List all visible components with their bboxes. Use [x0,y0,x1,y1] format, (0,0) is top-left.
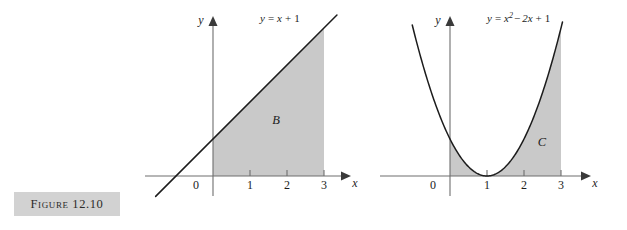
y-axis-arrow-left [209,16,218,26]
figure-caption-box: Figure 12.10 [14,192,120,216]
chart-left-linear: 0 1 2 3 x y B y=x+1 [135,0,365,230]
eq-right-equals: = [495,12,501,24]
x-tick-label-3-right: 3 [558,178,564,192]
shaded-region-b [213,28,324,176]
eq-right-lhs: y [486,12,492,24]
equation-label-right: y=x2−2x+1 [486,11,550,24]
shaded-region-c-precise [450,28,561,176]
x-tick-label-3-left: 3 [321,178,327,192]
x-axis-arrow-right [581,172,591,181]
x-tick-label-2-left: 2 [284,178,290,192]
eq-right-term3: 1 [545,12,551,24]
x-tick-label-0-right: 0 [430,178,436,192]
chart-right-parabola: 0 1 2 3 x y C y=x2−2x+1 [375,0,605,230]
region-label-c: C [538,135,547,149]
eq-right-term2: 2x [522,12,533,24]
x-axis-label-left: x [351,176,358,190]
eq-left-term1: x [276,12,282,24]
x-tick-label-1-right: 1 [484,178,490,192]
x-tick-label-2-right: 2 [521,178,527,192]
eq-right-plus: + [536,12,542,24]
eq-left-plus: + [285,12,291,24]
eq-left-term2: 1 [294,12,300,24]
eq-right-exponent: 2 [509,11,513,20]
x-axis-arrow-left [341,172,351,181]
eq-right-minus: − [514,12,520,24]
x-tick-label-0-left: 0 [193,178,199,192]
equation-label-left: y=x+1 [259,12,300,24]
x-axis-label-right: x [591,176,598,190]
region-label-b: B [272,113,280,127]
figure-caption-label: Figure 12.10 [31,197,104,212]
y-axis-label-left: y [197,13,204,27]
eq-left-equals: = [268,12,274,24]
eq-left-lhs: y [259,12,265,24]
x-tick-label-1-left: 1 [247,178,253,192]
y-axis-label-right: y [434,13,441,27]
y-axis-arrow-right [446,16,455,26]
figure-container: Figure 12.10 0 1 2 3 x y [0,0,627,230]
